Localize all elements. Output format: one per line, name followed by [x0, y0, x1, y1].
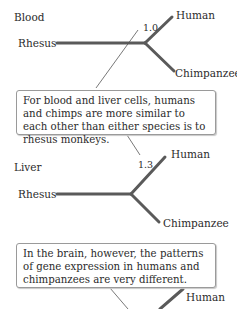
taxon-rhesus-blood: Rhesus — [18, 38, 56, 49]
taxon-human-brain: Human — [186, 292, 225, 303]
panel-title-liver: Liver — [14, 162, 42, 173]
brain-distance-leader — [110, 288, 128, 309]
taxon-rhesus-liver: Rhesus — [18, 189, 56, 200]
taxon-chimpanzee-blood: Chimpanzee — [175, 68, 237, 79]
callout-brain: In the brain, however, the patterns of g… — [16, 243, 216, 288]
liver-distance-leader — [127, 135, 140, 155]
distance-label-liver: 1.3 — [138, 160, 153, 170]
taxon-human-liver: Human — [171, 149, 210, 160]
taxon-human-blood: Human — [176, 10, 215, 21]
panel-title-blood: Blood — [14, 12, 44, 23]
distance-label-blood: 1.0 — [143, 23, 158, 33]
blood-distance-leader — [96, 30, 138, 88]
callout-blood-liver: For blood and liver cells, humans and ch… — [16, 90, 216, 135]
callout-text: In the brain, however, the patterns of g… — [23, 248, 203, 285]
brain-tree-branch — [160, 289, 183, 309]
taxon-chimpanzee-liver: Chimpanzee — [163, 218, 229, 229]
